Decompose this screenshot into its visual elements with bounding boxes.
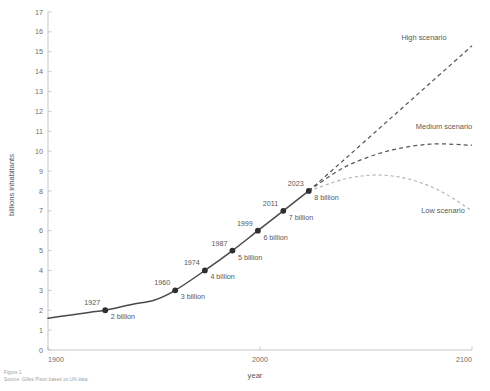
series-line-medium-scenario xyxy=(309,144,472,191)
y-axis-tick-label: 14 xyxy=(35,67,43,76)
x-axis-title: year xyxy=(248,371,263,380)
data-point-year-label: 1927 xyxy=(84,298,100,307)
data-point-value-label: 3 billion xyxy=(181,292,205,301)
y-axis-tick-label: 11 xyxy=(36,127,43,136)
data-point-value-label: 5 billion xyxy=(238,253,262,262)
y-axis-tick-label: 7 xyxy=(39,206,43,215)
y-axis-tick-label: 1 xyxy=(39,326,43,335)
x-axis-ticks xyxy=(48,347,472,351)
data-point-annotations: 19272 billion19603 billion19744 billion1… xyxy=(84,179,338,321)
x-axis-tick-label: 1900 xyxy=(48,355,64,364)
chart-canvas: 01234567891011121314151617 190020002100 … xyxy=(0,0,490,391)
y-axis-tick-label: 15 xyxy=(35,47,43,56)
y-axis-tick-label: 9 xyxy=(39,167,43,176)
y-axis-tick-label: 4 xyxy=(39,266,43,275)
y-axis-tick-label: 6 xyxy=(39,226,43,235)
x-axis-tick-label: 2000 xyxy=(252,355,268,364)
y-axis-tick-label: 8 xyxy=(39,187,43,196)
y-axis-tick-label: 13 xyxy=(35,87,43,96)
data-point-value-label: 2 billion xyxy=(111,312,135,321)
data-point-value-label: 7 billion xyxy=(289,213,313,222)
y-axis-tick-label: 5 xyxy=(39,246,43,255)
legend-label-low-scenario: Low scenario xyxy=(421,206,465,215)
data-point-year-label: 1999 xyxy=(237,219,253,228)
data-point-marker xyxy=(280,208,286,214)
data-point-value-label: 8 billion xyxy=(314,193,338,202)
x-axis-tick-labels: 190020002100 xyxy=(48,355,472,364)
y-axis-tick-label: 16 xyxy=(35,27,43,36)
data-point-year-label: 1960 xyxy=(154,278,170,287)
y-axis-tick-label: 3 xyxy=(39,286,43,295)
y-axis-tick-label: 0 xyxy=(39,346,43,355)
y-axis-tick-label: 2 xyxy=(39,306,43,315)
y-axis-ticks xyxy=(48,12,52,350)
data-point-marker xyxy=(102,307,108,313)
y-axis-tick-label: 10 xyxy=(35,147,43,156)
data-point-marker xyxy=(230,248,236,254)
data-point-value-label: 6 billion xyxy=(263,233,287,242)
data-point-marker xyxy=(172,287,178,293)
y-axis-tick-labels: 01234567891011121314151617 xyxy=(35,8,43,355)
data-point-marker xyxy=(202,268,208,274)
data-point-marker xyxy=(255,228,261,234)
data-point-year-label: 2023 xyxy=(288,179,304,188)
x-axis-tick-label: 2100 xyxy=(456,355,472,364)
series-group xyxy=(48,46,472,318)
axis-group xyxy=(48,12,472,350)
legend-label-high-scenario: High scenario xyxy=(401,33,446,42)
data-point-value-label: 4 billion xyxy=(210,272,234,281)
y-axis-tick-label: 12 xyxy=(35,107,43,116)
data-point-marker xyxy=(306,188,312,194)
y-axis-title: billions inhabitants xyxy=(7,154,16,216)
data-point-year-label: 2011 xyxy=(263,199,278,208)
source-caption: Source: Gilles Pison based on UN data. xyxy=(4,376,89,383)
data-point-year-label: 1987 xyxy=(211,239,227,248)
data-point-year-label: 1974 xyxy=(184,258,200,267)
series-line-high-scenario xyxy=(309,46,472,191)
y-axis-tick-label: 17 xyxy=(35,8,43,17)
population-projection-chart: 01234567891011121314151617 190020002100 … xyxy=(0,0,490,391)
legend-label-medium-scenario: Medium scenario xyxy=(416,122,472,131)
